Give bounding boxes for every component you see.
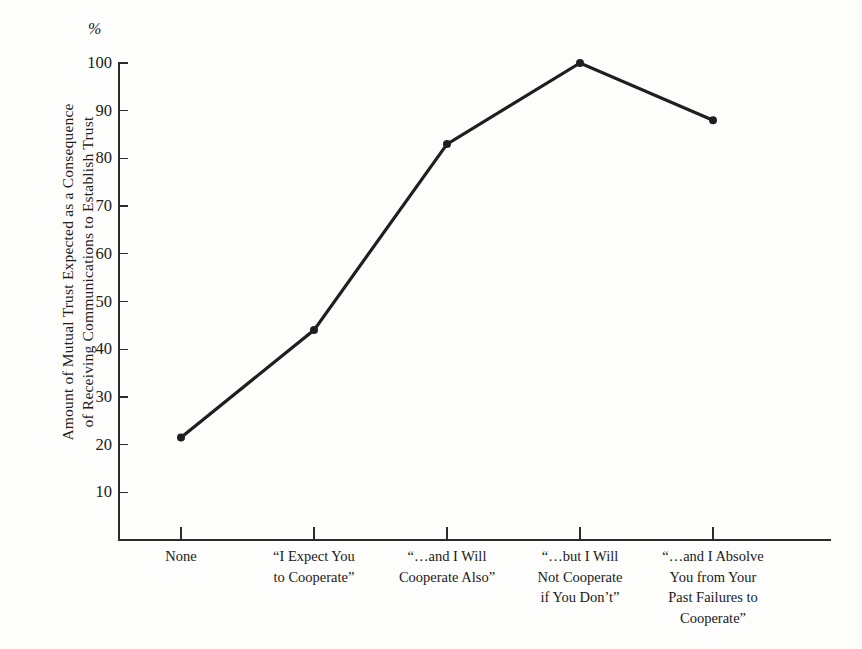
plot-area: [0, 0, 862, 649]
data-line: [181, 63, 713, 437]
data-point-0: [177, 433, 185, 441]
data-point-3: [576, 59, 584, 67]
data-point-markers: [177, 59, 717, 441]
data-point-2: [443, 140, 451, 148]
data-point-4: [709, 116, 717, 124]
data-point-1: [310, 326, 318, 334]
chart-figure: Amount of Mutual Trust Expected as a Con…: [0, 0, 862, 649]
